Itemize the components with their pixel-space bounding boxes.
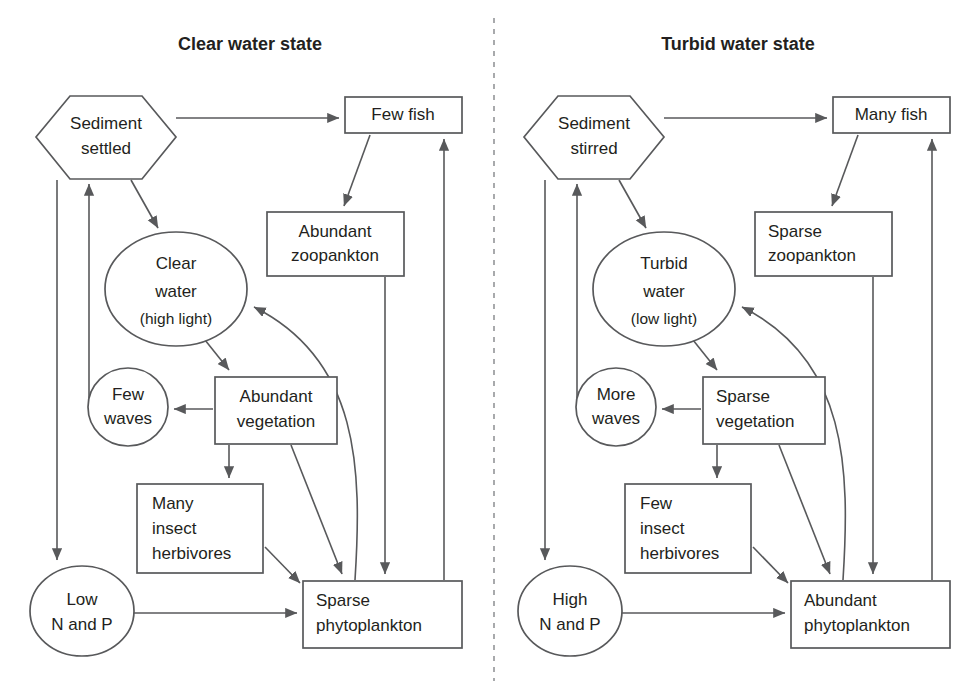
node-sparse-phytoplankton[interactable]: Sparse phytoplankton (303, 581, 462, 648)
node-abundant-vegetation[interactable]: Abundant vegetation (215, 377, 337, 444)
edge-vegetation-to-phytoplankton (291, 445, 342, 574)
panel-title-turbid: Turbid water state (661, 34, 815, 54)
node-more-waves[interactable]: More waves (576, 368, 656, 446)
edge-fish-to-zooplankton (344, 135, 370, 206)
node-sparse-vegetation[interactable]: Sparse vegetation (703, 377, 825, 444)
panel-turbid-water: Turbid water state Sediment stirred Many… (518, 34, 950, 656)
edge-sediment-to-water-t (619, 180, 646, 228)
node-sediment-settled[interactable]: Sediment settled (36, 96, 176, 179)
node-few-fish[interactable]: Few fish (345, 97, 462, 133)
node-low-n-and-p[interactable]: Low N and P (30, 566, 134, 656)
node-clear-water[interactable]: Clear water (high light) (105, 232, 247, 346)
node-few-waves[interactable]: Few waves (88, 368, 168, 446)
node-high-n-and-p[interactable]: High N and P (518, 566, 622, 656)
panel-clear-water: Clear water state Sediment settled (30, 34, 462, 656)
edge-insects-to-phytoplankton-t (753, 547, 788, 583)
edge-water-to-vegetation (205, 340, 229, 370)
alternative-stable-states-diagram: Clear water state Sediment settled (0, 0, 978, 694)
node-sediment-stirred[interactable]: Sediment stirred (524, 96, 664, 179)
edge-insects-to-phytoplankton (265, 547, 300, 583)
node-few-insect-herbivores[interactable]: Few insect herbivores (625, 484, 751, 573)
node-abundant-zoopankton[interactable]: Abundant zoopankton (267, 212, 404, 276)
node-many-insect-herbivores[interactable]: Many insect herbivores (137, 484, 263, 573)
node-sparse-zoopankton[interactable]: Sparse zoopankton (755, 212, 892, 276)
edge-sediment-to-water (131, 180, 158, 228)
edge-water-to-vegetation-t (693, 340, 717, 370)
node-many-fish[interactable]: Many fish (833, 97, 950, 133)
edge-vegetation-to-phytoplankton-t (779, 445, 830, 574)
node-abundant-phytoplankton[interactable]: Abundant phytoplankton (791, 581, 950, 648)
panel-title-clear: Clear water state (178, 34, 322, 54)
figure-canvas: Clear water state Sediment settled (0, 0, 978, 694)
node-turbid-water[interactable]: Turbid water (low light) (593, 232, 735, 346)
edge-fish-to-zooplankton-t (832, 135, 858, 206)
